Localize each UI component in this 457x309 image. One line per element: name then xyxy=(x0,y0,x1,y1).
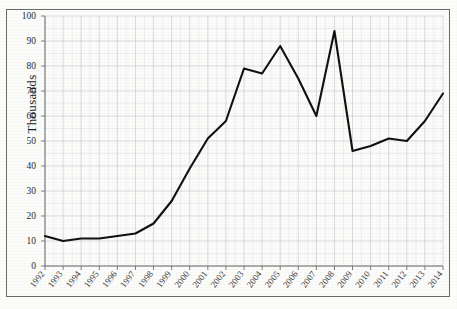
x-tick-label: 2012 xyxy=(389,269,408,289)
y-tick-label: 70 xyxy=(27,86,37,96)
x-tick-label: 1997 xyxy=(118,269,137,290)
y-tick-label: 0 xyxy=(31,261,36,271)
line-chart-figure: Thousands 0102030405060708090100 1992199… xyxy=(0,0,457,309)
x-tick-label: 2009 xyxy=(335,269,354,290)
x-tick-label: 2004 xyxy=(245,269,264,290)
x-axis-ticks: 1992199319941995199619971998199920002001… xyxy=(28,266,445,289)
x-tick-label: 1993 xyxy=(46,269,65,290)
y-tick-label: 60 xyxy=(27,111,37,121)
x-tick-label: 2005 xyxy=(263,269,282,290)
x-tick-label: 2010 xyxy=(353,269,372,290)
x-tick-label: 2007 xyxy=(299,269,318,290)
x-tick-label: 2003 xyxy=(227,269,246,290)
x-tick-label: 1999 xyxy=(154,269,173,290)
x-tick-label: 1998 xyxy=(136,269,155,290)
y-axis-ticks: 0102030405060708090100 xyxy=(22,11,45,271)
y-tick-label: 20 xyxy=(27,211,37,221)
x-tick-label: 2008 xyxy=(317,269,336,290)
y-tick-label: 90 xyxy=(27,36,37,46)
y-tick-label: 50 xyxy=(27,136,37,146)
y-tick-label: 30 xyxy=(27,186,37,196)
x-tick-label: 1994 xyxy=(64,269,83,290)
x-tick-label: 2002 xyxy=(209,269,228,289)
x-tick-label: 2013 xyxy=(408,269,427,290)
y-tick-label: 100 xyxy=(22,11,37,21)
x-tick-label: 2014 xyxy=(426,269,445,290)
y-tick-label: 40 xyxy=(27,161,37,171)
x-tick-label: 2001 xyxy=(190,269,209,289)
x-tick-label: 1992 xyxy=(28,269,47,289)
y-tick-label: 10 xyxy=(27,236,37,246)
x-tick-label: 1995 xyxy=(82,269,101,290)
y-tick-label: 80 xyxy=(27,61,37,71)
x-tick-label: 2000 xyxy=(172,269,191,290)
x-tick-label: 1996 xyxy=(100,269,119,290)
chart-canvas: 0102030405060708090100 19921993199419951… xyxy=(0,0,457,309)
x-tick-label: 2011 xyxy=(372,269,391,289)
x-tick-label: 2006 xyxy=(281,269,300,290)
